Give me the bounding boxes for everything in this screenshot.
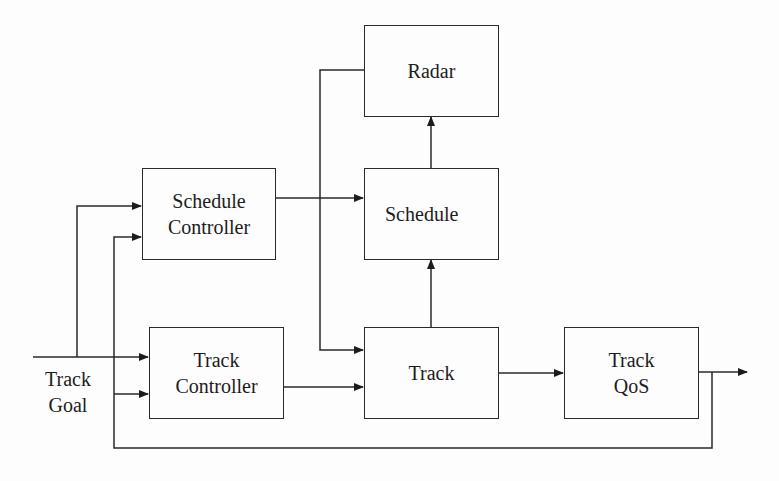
radar-block: Radar bbox=[364, 25, 499, 117]
schedule-controller-block: Schedule Controller bbox=[142, 168, 276, 260]
radar-label: Radar bbox=[408, 58, 456, 84]
track-qos-block: Track QoS bbox=[564, 327, 699, 419]
schedule-controller-label-line1: Schedule bbox=[172, 188, 245, 214]
track-controller-block: Track Controller bbox=[149, 327, 284, 419]
track-label: Track bbox=[409, 360, 455, 386]
track-goal-line2: Goal bbox=[40, 392, 96, 418]
track-qos-label-line1: Track bbox=[609, 347, 655, 373]
track-goal-label: Track Goal bbox=[40, 366, 96, 418]
radar-to-track-arrow bbox=[320, 70, 364, 350]
input-to-schedule-controller-arrow bbox=[77, 206, 141, 357]
track-controller-label-line1: Track bbox=[194, 347, 240, 373]
track-qos-label-line2: QoS bbox=[614, 373, 650, 399]
schedule-block: Schedule bbox=[364, 168, 499, 260]
diagram-canvas: Radar Schedule Schedule Controller Track… bbox=[0, 0, 779, 481]
track-controller-label-line2: Controller bbox=[175, 373, 257, 399]
track-goal-line1: Track bbox=[40, 366, 96, 392]
schedule-controller-label-line2: Controller bbox=[168, 214, 250, 240]
schedule-label: Schedule bbox=[385, 201, 458, 227]
track-block: Track bbox=[364, 327, 499, 419]
